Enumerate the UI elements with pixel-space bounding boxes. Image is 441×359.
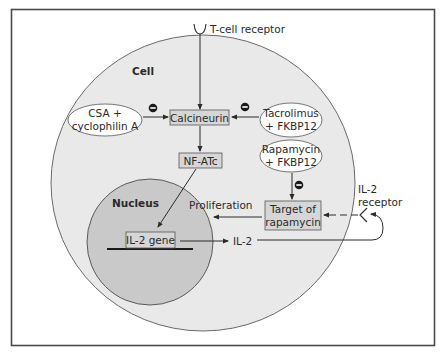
target-label-line1: Target of [269,203,316,215]
il2-receptor-label-line1: IL-2 [358,183,377,195]
tacrolimus-label-line1: Tacrolimus [262,107,319,119]
cell-label: Cell [132,65,154,77]
inhibition-icon [295,181,304,190]
csa-label-line1: CSA + [88,107,122,119]
il2-receptor-label-line2: receptor [358,196,403,208]
nfatc-label: NF-ATc [183,155,217,167]
inhibition-icon [149,104,158,113]
calcineurin-label: Calcineurin [170,112,229,124]
cell-membrane [51,35,355,331]
tacrolimus-label-line2: + FKBP12 [265,120,317,132]
nucleus-label: Nucleus [112,197,159,209]
tcell-receptor-label: T-cell receptor [209,23,286,35]
target-label-line2: rapamycin [265,216,321,228]
proliferation-label: Proliferation [189,199,253,211]
il2-gene-label: IL-2 gene [126,234,175,246]
il2-label: IL-2 [233,235,252,247]
rapamycin-label-line2: + FKBP12 [265,156,317,168]
csa-label-line2: cyclophilin A [72,120,139,132]
diagram-canvas: Cell Nucleus T-cell receptor Calcineurin… [0,0,441,359]
rapamycin-label-line1: Rapamycin [262,143,320,155]
inhibition-icon [241,103,250,112]
